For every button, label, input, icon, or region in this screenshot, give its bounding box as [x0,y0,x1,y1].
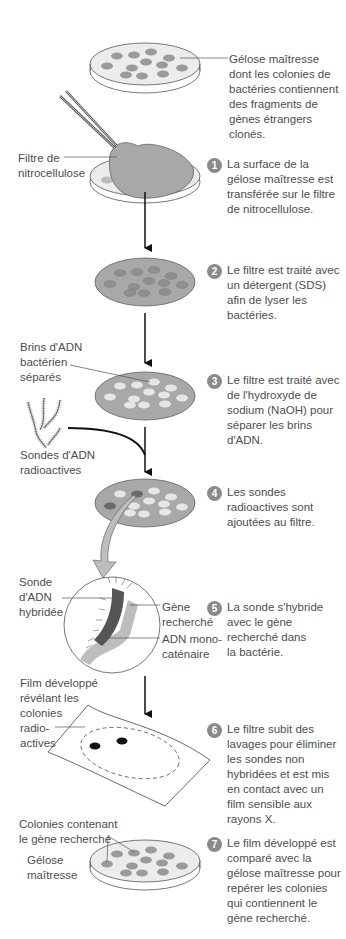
filter-step4 [95,479,195,527]
master-plate-top [90,43,228,93]
label-colonies-with-gene: Colonies contenant le gène recherché [19,817,117,847]
label-separated-strands: Brins d'ADN bactérien séparés [20,340,82,385]
step-badge-6: 6 [207,723,222,738]
label-target-gene: Gène recherché [162,600,213,630]
filter-transfer [60,91,200,203]
step-badge-4: 4 [207,486,222,501]
step-text-2: Le filtre est traité avec un détergent (… [227,263,340,323]
step-text-7: Le film développé est comparé avec la gé… [227,836,341,926]
step-text-6: Le filtre subit des lavages pour élimine… [227,722,336,827]
step-badge-5: 5 [207,601,222,616]
step-text-4: Les sondes radioactives sont ajoutées au… [227,485,315,530]
label-single-strand-dna: ADN mono- caténaire [162,632,222,662]
label-nitrocellulose-filter: Filtre de nitrocellulose [18,151,85,181]
step-badge-2: 2 [207,264,222,279]
label-master-plate: Gélose maîtresse dont les colonies de ba… [229,52,338,142]
label-developed-film: Film développé révélant les colonies rad… [20,676,98,751]
step-badge-7: 7 [207,837,222,852]
hybridization-zoom [62,576,160,673]
radioactive-probes-icon [28,398,60,448]
step-text-3: Le filtre est traité avec de l'hydroxyde… [227,373,340,448]
step-badge-1: 1 [207,158,222,173]
label-master-plate-short: Gélose maîtresse [27,853,78,883]
filter-step2 [95,258,195,306]
step-badge-3: 3 [207,374,222,389]
filter-step3 [70,365,195,420]
step-text-5: La sonde s'hybride avec le gène recherch… [227,600,323,660]
step-text-1: La surface de la gélose maîtresse est tr… [227,157,335,217]
label-hybridized-probe: Sonde d'ADN hybridée [19,575,63,620]
label-radioactive-probes: Sondes d'ADN radioactives [20,448,95,478]
